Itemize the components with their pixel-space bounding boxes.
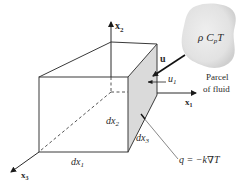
dx3-label: dx3 — [136, 132, 149, 145]
diagram-canvas: x2 x1 x3 dx1 dx2 dx3 ρCpT Parcel of flui… — [0, 0, 251, 187]
heat-flux-label: q = −k∇T — [179, 154, 221, 165]
parcel-caption-line1: Parcel — [206, 72, 229, 82]
parcel-caption-line2: of fluid — [203, 84, 230, 94]
dx1-label: dx1 — [71, 156, 84, 169]
control-volume-diagram: x2 x1 x3 dx1 dx2 dx3 ρCpT Parcel of flui… — [0, 0, 251, 187]
dx2-label: dx2 — [106, 115, 119, 128]
velocity-vector-label: u — [160, 53, 166, 64]
hidden-edge-diagonal — [40, 92, 111, 151]
top-back-edge — [111, 42, 157, 44]
x3-axis — [11, 152, 39, 172]
u1-component-label: u1 — [168, 73, 177, 86]
x3-axis-label: x3 — [21, 170, 29, 181]
top-left-edge — [39, 42, 111, 77]
parcel-expression: ρCpT — [197, 31, 224, 45]
x2-axis-label: x2 — [115, 20, 124, 34]
x1-axis-label: x1 — [185, 97, 193, 108]
